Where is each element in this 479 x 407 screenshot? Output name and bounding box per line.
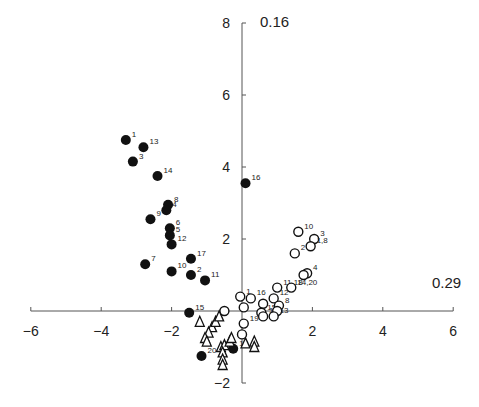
point-label: 3 — [139, 152, 144, 161]
filled-circle-marker — [161, 205, 171, 215]
filled-circle-marker — [145, 214, 155, 224]
filled-circle-marker — [200, 275, 210, 285]
x-axis-title: 0.29 — [432, 274, 461, 291]
filled-circle-marker — [140, 259, 150, 269]
filled-circle-marker — [165, 230, 175, 240]
point-label: 20 — [208, 346, 217, 355]
y-tick-label: 4 — [222, 159, 230, 175]
x-tick-label: 4 — [379, 323, 387, 339]
x-tick-label: −6 — [23, 323, 39, 339]
filled-circle-marker — [167, 239, 177, 249]
point-label: 4 — [172, 200, 177, 209]
filled-circle-marker — [186, 270, 196, 280]
point-label: 13 — [149, 137, 158, 146]
point-label: 4 — [313, 263, 318, 272]
point-label: 17 — [197, 249, 206, 258]
filled-circle-marker — [121, 135, 131, 145]
filled-circle-marker — [186, 254, 196, 264]
point-label: 1 — [132, 130, 137, 139]
point-label: 16 — [252, 173, 261, 182]
point-label: 13 — [280, 306, 289, 315]
point-label: 5 — [176, 225, 181, 234]
point-label: 10 — [304, 222, 313, 231]
y-tick-label: 6 — [222, 87, 230, 103]
filled-circle-marker — [197, 351, 207, 361]
y-axis-title: 0.16 — [260, 13, 289, 30]
point-label: 1,8 — [317, 236, 329, 245]
open-circle-marker — [269, 312, 278, 321]
open-triangle-marker — [227, 333, 236, 343]
open-circle-marker — [239, 319, 248, 328]
point-label: 15 — [195, 303, 204, 312]
point-label: 14,20 — [297, 278, 318, 287]
open-circle-marker — [236, 292, 245, 301]
series-open-circles: 1031,82411,1814,20169121151781319 — [220, 222, 328, 339]
y-tick-label: 2 — [222, 231, 230, 247]
open-circle-marker — [259, 312, 268, 321]
point-label: 19 — [250, 314, 259, 323]
filled-circle-marker — [153, 171, 163, 181]
point-label: 16 — [257, 288, 266, 297]
filled-circle-marker — [241, 178, 251, 188]
x-tick-label: −4 — [93, 323, 109, 339]
x-tick-label: 6 — [449, 323, 457, 339]
open-circle-marker — [259, 299, 268, 308]
filled-circle-marker — [184, 308, 194, 318]
point-label: 14 — [164, 166, 173, 175]
open-triangle-marker — [195, 316, 204, 326]
scatter-chart: −6−4−2246−22468 113314168496512177102111… — [0, 0, 479, 407]
open-circle-marker — [306, 242, 315, 251]
point-label: 9 — [156, 209, 161, 218]
point-label: 2 — [301, 243, 306, 252]
x-tick-label: −2 — [164, 323, 180, 339]
filled-circle-marker — [128, 157, 138, 167]
y-tick-label: 8 — [222, 15, 230, 31]
point-label: 10 — [178, 261, 187, 270]
x-tick-label: 2 — [309, 323, 317, 339]
point-label: 2 — [197, 265, 202, 274]
open-circle-marker — [290, 249, 299, 258]
open-circle-marker — [239, 303, 248, 312]
point-label: 1 — [246, 287, 251, 296]
point-label: 11 — [211, 270, 220, 279]
open-circle-marker — [294, 227, 303, 236]
point-label: 7 — [151, 254, 156, 263]
y-tick-label: −2 — [214, 375, 230, 391]
filled-circle-marker — [167, 266, 177, 276]
point-label: 12 — [178, 234, 187, 243]
point-label: 8 — [285, 296, 290, 305]
